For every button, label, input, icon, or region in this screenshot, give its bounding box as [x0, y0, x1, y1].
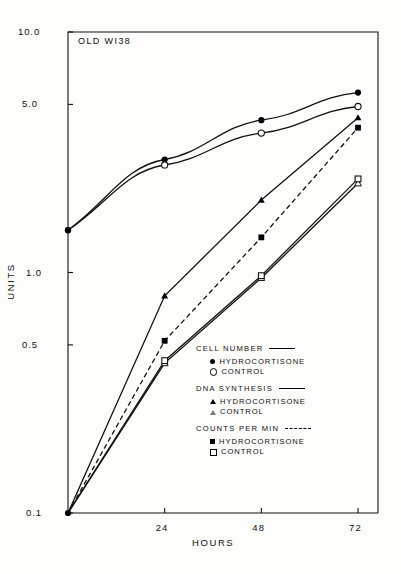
chart-plot-area: [0, 0, 401, 574]
figure-panel: UNITS 10.0 5.0 1.0 0.5 0.1 24 48 72 HOUR…: [0, 0, 401, 574]
legend-entry-label: CONTROL: [221, 448, 265, 456]
y-tick-label-5: 5.0: [22, 98, 38, 109]
legend-entry-label: HYDROCORTISONE: [220, 398, 306, 406]
legend-group-header: DNA SYNTHESIS: [196, 385, 311, 393]
legend-group: DNA SYNTHESISHYDROCORTISONECONTROL: [196, 385, 311, 416]
open-triangle-icon: [210, 410, 216, 415]
legend-entry-label: CONTROL: [221, 368, 265, 376]
filled-square-icon: [210, 439, 215, 444]
x-tick-label-72: 72: [349, 522, 362, 533]
open-circle-icon: [210, 368, 217, 375]
legend-group-header: COUNTS PER MIN: [196, 425, 311, 433]
filled-circle-icon: [210, 359, 215, 364]
y-tick-label-01: 0.1: [26, 507, 42, 518]
legend-group-header: CELL NUMBER: [196, 345, 311, 353]
legend-entry: CONTROL: [210, 368, 311, 376]
legend-entry: HYDROCORTISONE: [210, 438, 311, 446]
y-tick-label-05: 0.5: [22, 339, 38, 350]
x-axis-title: HOURS: [192, 537, 234, 548]
legend-group-title: DNA SYNTHESIS: [196, 385, 273, 393]
open-square-icon: [210, 449, 217, 456]
legend-entry-label: CONTROL: [220, 408, 264, 416]
chart-legend: CELL NUMBERHYDROCORTISONECONTROLDNA SYNT…: [196, 345, 311, 465]
legend-line-sample: [285, 428, 311, 429]
legend-group: CELL NUMBERHYDROCORTISONECONTROL: [196, 345, 311, 376]
x-tick-label-24: 24: [156, 522, 169, 533]
legend-entry: CONTROL: [210, 408, 311, 416]
y-tick-label-1: 1.0: [26, 267, 42, 278]
legend-entry: HYDROCORTISONE: [210, 358, 311, 366]
legend-entry-label: HYDROCORTISONE: [219, 438, 305, 446]
legend-entry-label: HYDROCORTISONE: [219, 358, 305, 366]
legend-group: COUNTS PER MINHYDROCORTISONECONTROL: [196, 425, 311, 456]
series-line: [68, 107, 358, 231]
series-line: [68, 93, 358, 231]
legend-line-sample: [269, 348, 295, 349]
legend-group-title: CELL NUMBER: [196, 345, 263, 353]
y-axis-title: UNITS: [5, 252, 16, 312]
legend-line-sample: [279, 388, 305, 389]
legend-entry: CONTROL: [210, 448, 311, 456]
y-tick-label-10: 10.0: [18, 26, 40, 37]
panel-label: OLD WI38: [78, 36, 131, 46]
filled-triangle-icon: [210, 399, 216, 404]
legend-entry: HYDROCORTISONE: [210, 398, 311, 406]
legend-group-title: COUNTS PER MIN: [196, 425, 279, 433]
x-tick-label-48: 48: [252, 522, 265, 533]
